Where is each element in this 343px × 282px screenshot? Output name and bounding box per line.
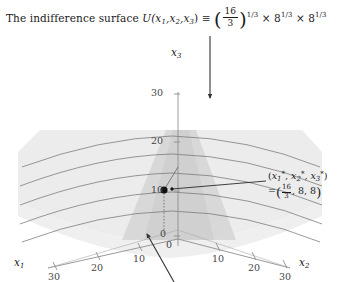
tick-x3-30: 30 <box>151 87 163 98</box>
exponent-one-third-1: 1/3 <box>247 11 259 19</box>
annot-open-paren2: ( <box>276 186 281 201</box>
exponent-one-third-3: 1/3 <box>315 11 327 19</box>
axis-label-x2-sub: 2 <box>305 262 309 270</box>
function-comma1: ,x <box>166 12 175 24</box>
annot-frac-den: 3 <box>282 193 291 200</box>
annot-frac-num: 16 <box>282 184 291 191</box>
exponent-one-third-2: 1/3 <box>281 11 293 19</box>
annot-fraction-16-3: 163 <box>282 184 291 200</box>
fraction-denominator: 3 <box>223 19 239 28</box>
tick-x2-10: 10 <box>212 253 224 264</box>
base-eight-1: 8 <box>274 12 281 24</box>
tick-x2-30: 30 <box>279 271 291 282</box>
three-d-plot: 30 20 10 0 30 20 10 10 20 30 0 x1 x2 x3 … <box>0 34 343 282</box>
axis-label-x1: x1 <box>14 256 24 270</box>
axis-label-x3: x3 <box>171 46 181 60</box>
annot-sep1: , x <box>285 170 296 181</box>
tick-x1-20: 20 <box>91 262 103 273</box>
axis-label-x2: x2 <box>299 256 309 270</box>
axis-label-x3-sub: 3 <box>177 52 181 60</box>
times-sign-1: × <box>262 12 271 24</box>
optimum-annotation-line1: (x1*, x2*, x3*) <box>268 170 328 184</box>
annot-values-rest: , 8, 8 <box>292 186 316 197</box>
tick-x1-10: 10 <box>133 253 145 264</box>
caption-formula: The indifference surface U(x1,x2,x3) ≡ (… <box>6 7 340 30</box>
tick-x1-30: 30 <box>48 271 60 282</box>
tick-x3-0: 0 <box>160 228 166 239</box>
tick-x2-20: 20 <box>248 262 260 273</box>
tick-x3-20: 20 <box>151 135 163 146</box>
annot-close-paren: ) <box>324 170 328 181</box>
tick-x3-10: 10 <box>151 184 163 195</box>
annot-equals: = <box>268 186 276 197</box>
annot-close-paren2: ) <box>316 186 321 201</box>
times-sign-2: × <box>296 12 305 24</box>
caption-lead: The indifference surface <box>6 12 139 24</box>
fraction-16-3: 163 <box>223 7 239 28</box>
function-name: U(x <box>142 12 161 24</box>
fraction-numerator: 16 <box>223 7 239 16</box>
equivalence-sign: ≡ <box>202 12 211 24</box>
tick-origin-0: 0 <box>166 239 172 250</box>
optimum-annotation-line2: =(163, 8, 8) <box>268 184 328 202</box>
close-paren-big: ) <box>239 8 247 30</box>
annot-sep2: , x <box>304 170 315 181</box>
open-paren-big: ( <box>214 8 222 30</box>
axis-label-x1-sub: 1 <box>20 262 24 270</box>
function-close-paren: ) <box>194 12 198 24</box>
optimum-annotation: (x1*, x2*, x3*) =(163, 8, 8) <box>268 170 328 202</box>
